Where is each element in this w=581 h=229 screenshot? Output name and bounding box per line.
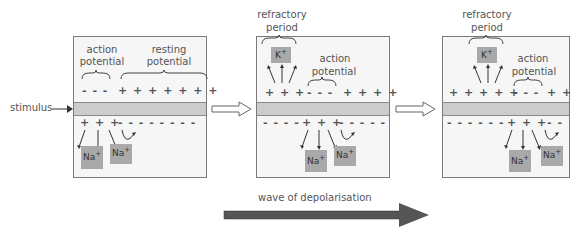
wave-arrow-icon [224,203,430,227]
refractory-period-label-2a: refractory [255,9,309,21]
inside-negative-charges: - - - - - - [447,117,505,129]
sodium-ion-box: Na+ [509,150,531,172]
sodium-ion-box: Na+ [541,146,563,166]
stimulus-arrow-icon [52,104,74,114]
brace-icon [468,35,504,45]
panel-3: K+ action potential + + + + + - - - + + … [442,36,570,178]
inside-negative-charges: - - - - [263,117,300,129]
refractory-period-label-2b: period [260,22,304,34]
outside-positive-charges: + + + [265,87,305,99]
refractory-period-label-3b: period [465,22,509,34]
ion-efflux-arrows-icon [265,65,299,85]
action-potential-label-1a: action [84,44,120,56]
outside-negative-charges: - - - [82,85,108,97]
resting-potential-label-1a: resting [144,44,194,56]
inside-negative-charges: - - - - - [339,117,386,129]
stimulus-label: stimulus [10,102,52,114]
open-arrow-icon [396,102,436,116]
outside-positive-charges: + + [547,87,572,99]
action-potential-label-2a: action [315,53,355,65]
panel-2: K+ action potential + + + - - - + + + + … [256,36,390,178]
potassium-ion-box: K+ [477,47,497,63]
inside-positive-charges: + + + [302,117,342,129]
brace-icon [261,35,297,45]
inside-positive-charges: + + + [80,117,120,129]
refractory-period-label-3a: refractory [460,9,514,21]
axon-membrane [443,102,569,116]
sodium-ion-box: Na+ [110,144,132,164]
action-potential-label-3a: action [513,53,553,65]
sodium-ion-box: Na+ [305,150,327,172]
outside-positive-charges: + + + + [343,87,398,99]
potassium-ion-box: K+ [271,47,291,63]
axon-membrane [257,102,389,116]
action-potential-label-1b: potential [78,56,126,68]
inside-negative-charges: - - - - - - - - [118,117,196,129]
inside-positive-charges: + + + [507,117,547,129]
ion-efflux-arrows-icon [471,65,505,85]
outside-positive-charges: + + + + + + + [118,85,219,97]
sodium-ion-box: Na+ [334,146,356,166]
brace-icon [120,70,208,80]
outside-negative-charges: - - - [513,87,539,99]
brace-icon [81,70,111,80]
axon-membrane [74,102,206,116]
open-arrow-icon [212,102,252,116]
sodium-ion-box: Na+ [81,146,103,169]
resting-potential-label-1b: potential [142,56,196,68]
outside-negative-charges: - - - [307,87,333,99]
panel-1: action potential resting potential - - -… [73,36,207,178]
inside-negative-charges: - - [547,117,563,129]
outside-positive-charges: + + + + + [449,87,519,99]
